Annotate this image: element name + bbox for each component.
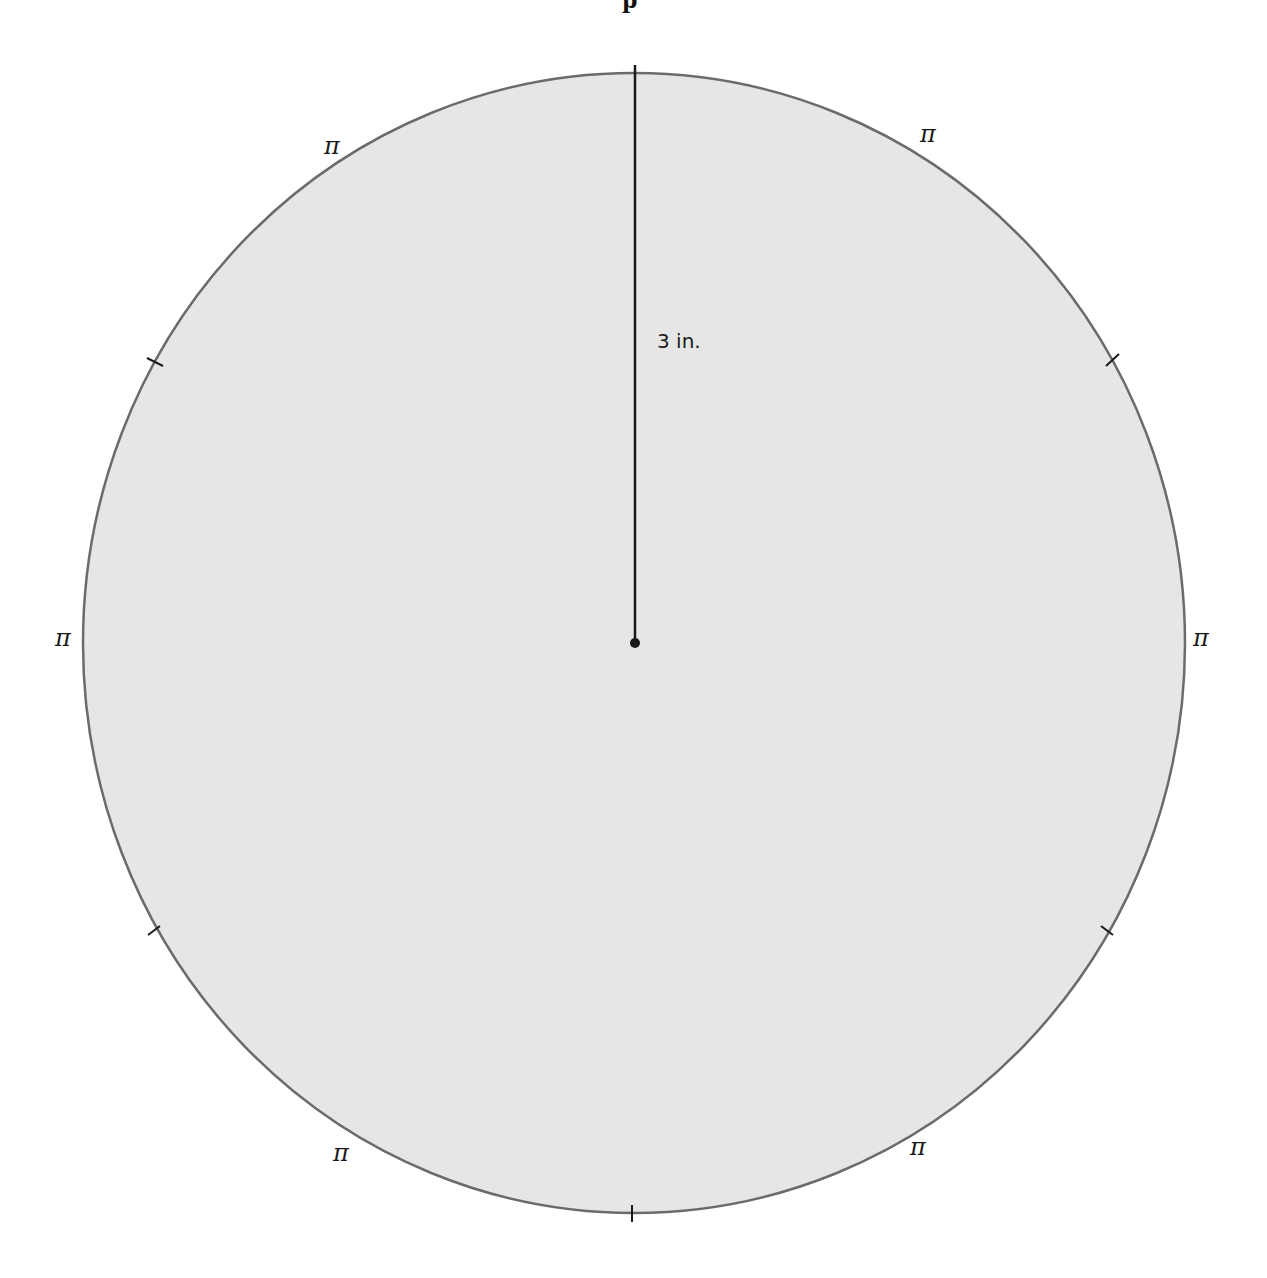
arc-label-right: π <box>1192 624 1210 652</box>
arc-label-lower-left: π <box>332 1139 350 1167</box>
arc-label-upper-right: π <box>919 120 937 148</box>
title-fragment: p <box>622 0 637 13</box>
center-point <box>630 638 640 648</box>
arc-label-left: π <box>54 624 72 652</box>
arc-label-lower-right: π <box>909 1133 927 1161</box>
arc-label-upper-left: π <box>323 132 341 160</box>
circle-diagram: p 3 in. π π π π π π <box>0 0 1267 1278</box>
radius-label: 3 in. <box>657 329 701 353</box>
